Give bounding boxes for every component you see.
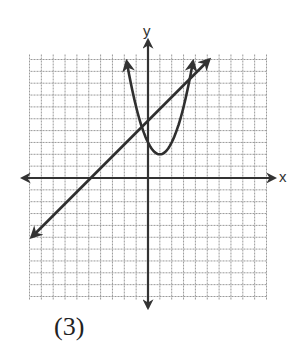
y-axis-label: y [143,22,151,39]
x-axis-label: x [279,168,287,185]
linear-function-line [32,60,210,238]
figure-caption: (3) [54,312,84,342]
coordinate-graph [0,0,304,360]
